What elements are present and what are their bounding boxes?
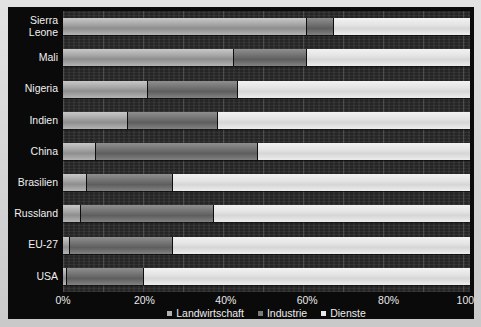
bar-rows bbox=[63, 11, 470, 292]
y-axis-label: China bbox=[8, 136, 63, 167]
bar-row bbox=[63, 136, 470, 167]
y-axis-label: USA bbox=[8, 261, 63, 292]
y-axis-label: Russland bbox=[8, 198, 63, 229]
bar-segment-industrie[interactable] bbox=[96, 143, 259, 160]
bar-segment-landwirtschaft[interactable] bbox=[63, 205, 81, 222]
bar-row bbox=[63, 11, 470, 42]
square-marker-icon bbox=[321, 311, 326, 316]
stacked-bar[interactable] bbox=[63, 81, 470, 98]
legend-label: Industrie bbox=[267, 307, 307, 319]
chart-legend: LandwirtschaftIndustrieDienste bbox=[63, 306, 470, 319]
bar-segment-landwirtschaft[interactable] bbox=[63, 174, 87, 191]
y-axis-label: Brasilien bbox=[8, 167, 63, 198]
x-axis-tick-label: 0% bbox=[55, 294, 70, 306]
bar-row bbox=[63, 167, 470, 198]
legend-item[interactable]: Landwirtschaft bbox=[167, 307, 244, 319]
legend-label: Landwirtschaft bbox=[176, 307, 244, 319]
y-axis-label: Sierra Leone bbox=[8, 11, 63, 42]
bar-segment-industrie[interactable] bbox=[148, 81, 238, 98]
x-axis-tick-label: 60% bbox=[297, 294, 318, 306]
bar-segment-industrie[interactable] bbox=[81, 205, 213, 222]
bar-row bbox=[63, 42, 470, 73]
square-marker-icon bbox=[167, 311, 172, 316]
chart-screenshot: Sierra LeoneMaliNigeriaIndienChinaBrasil… bbox=[0, 0, 481, 327]
x-axis-tick-label: 80% bbox=[378, 294, 399, 306]
bar-row bbox=[63, 105, 470, 136]
bar-row bbox=[63, 73, 470, 104]
x-axis-tick-label: 100% bbox=[457, 294, 474, 306]
bar-segment-landwirtschaft[interactable] bbox=[63, 112, 128, 129]
bar-segment-landwirtschaft[interactable] bbox=[63, 18, 307, 35]
stacked-bar[interactable] bbox=[63, 268, 470, 285]
bar-segment-dienste[interactable] bbox=[214, 205, 470, 222]
bar-segment-dienste[interactable] bbox=[258, 143, 470, 160]
bar-segment-industrie[interactable] bbox=[128, 112, 218, 129]
stacked-bar[interactable] bbox=[63, 18, 470, 35]
bar-segment-industrie[interactable] bbox=[70, 237, 173, 254]
stacked-bar[interactable] bbox=[63, 112, 470, 129]
stacked-bar[interactable] bbox=[63, 143, 470, 160]
y-axis-label: Nigeria bbox=[8, 73, 63, 104]
bar-segment-landwirtschaft[interactable] bbox=[63, 49, 234, 66]
bar-segment-dienste[interactable] bbox=[307, 49, 470, 66]
legend-item[interactable]: Industrie bbox=[258, 307, 307, 319]
bar-segment-dienste[interactable] bbox=[173, 237, 470, 254]
bar-segment-industrie[interactable] bbox=[234, 49, 307, 66]
x-axis-tick-label: 20% bbox=[134, 294, 155, 306]
bar-segment-dienste[interactable] bbox=[238, 81, 470, 98]
legend-label: Dienste bbox=[330, 307, 366, 319]
stacked-bar[interactable] bbox=[63, 49, 470, 66]
bar-row bbox=[63, 261, 470, 292]
bar-segment-dienste[interactable] bbox=[173, 174, 470, 191]
bar-segment-dienste[interactable] bbox=[218, 112, 470, 129]
bar-row bbox=[63, 230, 470, 261]
square-marker-icon bbox=[258, 311, 263, 316]
bar-segment-landwirtschaft[interactable] bbox=[63, 81, 148, 98]
bar-segment-landwirtschaft[interactable] bbox=[63, 143, 96, 160]
chart-panel: Sierra LeoneMaliNigeriaIndienChinaBrasil… bbox=[8, 7, 474, 319]
bar-segment-industrie[interactable] bbox=[87, 174, 172, 191]
plot-area bbox=[63, 11, 470, 292]
bar-segment-industrie[interactable] bbox=[307, 18, 333, 35]
bar-segment-industrie[interactable] bbox=[67, 268, 144, 285]
bar-segment-dienste[interactable] bbox=[334, 18, 470, 35]
bar-segment-dienste[interactable] bbox=[144, 268, 470, 285]
y-axis-category-labels: Sierra LeoneMaliNigeriaIndienChinaBrasil… bbox=[8, 11, 63, 292]
x-axis-tick-label: 40% bbox=[215, 294, 236, 306]
stacked-bar[interactable] bbox=[63, 205, 470, 222]
stacked-bar[interactable] bbox=[63, 174, 470, 191]
bar-row bbox=[63, 198, 470, 229]
y-axis-label: Mali bbox=[8, 42, 63, 73]
stacked-bar[interactable] bbox=[63, 237, 470, 254]
bar-segment-landwirtschaft[interactable] bbox=[63, 237, 70, 254]
y-axis-label: EU-27 bbox=[8, 230, 63, 261]
legend-item[interactable]: Dienste bbox=[321, 307, 366, 319]
y-axis-label: Indien bbox=[8, 105, 63, 136]
